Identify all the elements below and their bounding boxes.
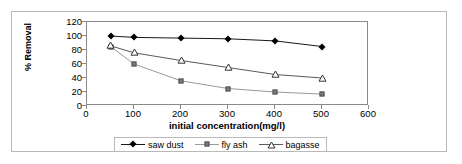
data-point-saw-dust bbox=[107, 32, 114, 39]
y-tick-label: 80 bbox=[54, 45, 82, 54]
data-point-saw-dust bbox=[224, 35, 231, 42]
data-point-fly-ash bbox=[320, 92, 325, 97]
x-tick-label: 0 bbox=[71, 108, 101, 119]
y-tick-label: 60 bbox=[54, 59, 82, 68]
chart-legend: saw dust fly ash bagasse bbox=[114, 137, 327, 152]
data-point-fly-ash bbox=[132, 62, 137, 67]
y-tick-label: 120 bbox=[54, 17, 82, 26]
x-tick-label: 200 bbox=[165, 108, 195, 119]
data-point-bagasse bbox=[224, 63, 233, 71]
data-point-saw-dust bbox=[318, 43, 325, 50]
data-point-bagasse bbox=[106, 41, 115, 49]
filled-diamond-marker-icon bbox=[121, 140, 145, 149]
plot-area bbox=[86, 21, 368, 105]
data-point-saw-dust bbox=[177, 35, 184, 42]
data-point-saw-dust bbox=[130, 34, 137, 41]
data-point-fly-ash bbox=[226, 86, 231, 91]
data-point-bagasse bbox=[318, 74, 327, 82]
y-tick-label: 100 bbox=[54, 31, 82, 40]
legend-label: saw dust bbox=[148, 140, 184, 150]
x-tick-label: 600 bbox=[353, 108, 383, 119]
x-tick-label: 500 bbox=[306, 108, 336, 119]
x-axis-title: initial concentration(mg/l) bbox=[86, 120, 368, 131]
legend-entry-bagasse[interactable]: bagasse bbox=[259, 140, 320, 150]
line-chart: % Removal 120 100 80 60 40 20 0 0 100 20… bbox=[0, 0, 462, 164]
data-point-fly-ash bbox=[179, 78, 184, 83]
y-tick-label: 20 bbox=[54, 87, 82, 96]
data-point-saw-dust bbox=[271, 37, 278, 44]
legend-entry-fly-ash[interactable]: fly ash bbox=[195, 140, 248, 150]
filled-square-marker-icon bbox=[195, 140, 219, 149]
data-point-bagasse bbox=[271, 70, 280, 78]
x-tick-label: 400 bbox=[259, 108, 289, 119]
marker-layer bbox=[87, 22, 369, 106]
legend-label: bagasse bbox=[286, 140, 320, 150]
data-point-bagasse bbox=[130, 48, 139, 56]
open-triangle-marker-icon bbox=[259, 140, 283, 149]
data-point-bagasse bbox=[177, 56, 186, 64]
legend-label: fly ash bbox=[222, 140, 248, 150]
x-tick-label: 100 bbox=[118, 108, 148, 119]
x-tick-label: 300 bbox=[212, 108, 242, 119]
data-point-fly-ash bbox=[273, 90, 278, 95]
y-tick-label: 40 bbox=[54, 73, 82, 82]
legend-entry-saw-dust[interactable]: saw dust bbox=[121, 140, 184, 150]
